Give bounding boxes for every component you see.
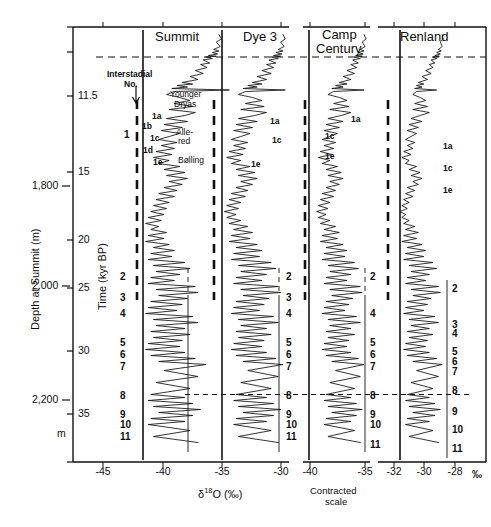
interstadial-number-dye3-4: 4 (286, 309, 292, 319)
interstadial-number-summit-10: 10 (120, 420, 131, 430)
interstadial-number-dye3-8: 8 (286, 391, 292, 401)
interstadial-number-renland-9: 9 (452, 407, 458, 417)
interstadial-number-camp-century-8: 8 (370, 391, 376, 401)
time-tick-30: 30 (78, 345, 90, 356)
interstadial-number-camp-century-11: 11 (370, 440, 381, 450)
substage-1e-renland: 1e (443, 186, 452, 195)
event-allerod-line2: red (178, 137, 190, 146)
core-title-summit: Summit (155, 30, 199, 43)
interstadial-number-summit-3: 3 (120, 293, 126, 303)
curve-camp-century (317, 35, 366, 443)
xlabel-main-2: -35 (214, 465, 229, 477)
interstadial-number-dye3-5: 5 (286, 338, 292, 348)
interstadial-number-summit-4: 4 (120, 309, 126, 319)
event-younger: Younger (170, 90, 201, 99)
interstadial-number-summit-6: 6 (120, 350, 126, 360)
xlabel-renland-0: -32 (386, 465, 401, 477)
core-title-camp-century-line2: Century (316, 42, 362, 55)
substage-1e-dye3: 1e (251, 160, 260, 169)
xlabel-contracted-0: -40 (302, 465, 317, 477)
time-axis-title: Time (kyr BP) (97, 243, 108, 310)
interstadial-number-dye3-2: 2 (286, 272, 292, 282)
stage-label-1: 1 (124, 130, 130, 140)
interstadial-number-renland-2: 2 (452, 284, 458, 294)
interstadial-number-renland-11: 11 (452, 444, 463, 454)
contracted-scale-line1: Contracted (310, 486, 356, 496)
core-title-dye3: Dye 3 (243, 30, 277, 43)
interstadial-number-dye3-6: 6 (286, 350, 292, 360)
interstadial-number-renland-4: 4 (452, 329, 458, 339)
substage-1a-dye3: 1a (270, 117, 279, 126)
interstadial-header-line1: Interstadial (107, 70, 152, 79)
interstadial-number-summit-2: 2 (120, 272, 126, 282)
substage-1d-summit: 1d (143, 146, 153, 155)
xlabel-contracted-1: -35 (357, 465, 372, 477)
curve-renland (400, 35, 443, 443)
interstadial-number-camp-century-10: 10 (370, 420, 381, 430)
interstadial-number-summit-8: 8 (120, 391, 126, 401)
time-tick-11-5: 11.5 (78, 90, 98, 101)
figure-canvas: -45-40-35-30-40-35-32-30-28 (0, 0, 491, 527)
xlabel-renland-1: -30 (416, 465, 431, 477)
substage-1a-summit: 1a (152, 112, 161, 121)
depth-unit-label: m (57, 428, 66, 439)
substage-1e-summit: 1e (153, 158, 162, 167)
interstadial-number-camp-century-6: 6 (370, 350, 376, 360)
substage-1e-camp: 1e (325, 152, 334, 161)
interstadial-number-summit-5: 5 (120, 338, 126, 348)
substage-1a-camp: 1a (351, 115, 360, 124)
interstadial-number-dye3-10: 10 (286, 420, 297, 430)
interstadial-number-dye3-3: 3 (286, 293, 292, 303)
interstadial-number-renland-7: 7 (452, 367, 458, 377)
substage-1a-renland: 1a (443, 142, 452, 151)
substage-1c-dye3: 1c (272, 136, 281, 145)
interstadial-number-camp-century-2: 2 (370, 272, 376, 282)
core-title-renland: Renland (400, 30, 448, 43)
xlabel-renland-2: -28 (447, 465, 462, 477)
time-tick-20: 20 (78, 234, 90, 245)
time-tick-15: 15 (78, 166, 90, 177)
interstadial-number-renland-8: 8 (452, 386, 458, 396)
permil-unit: ‰ (472, 470, 482, 480)
interstadial-number-camp-century-7: 7 (370, 362, 376, 372)
delta-oxygen-permil: O (‰) (212, 488, 242, 500)
interstadial-number-dye3-7: 7 (286, 362, 292, 372)
depth-tick-1800: 1,800 (32, 180, 58, 191)
substage-1c-camp: 1c (325, 132, 334, 141)
substage-1c-summit: 1c (150, 134, 159, 143)
xlabel-main-1: -40 (155, 465, 170, 477)
event-dryas: Dryas (174, 100, 196, 109)
curve-dye-3 (224, 35, 285, 443)
interstadial-number-dye3-11: 11 (286, 432, 297, 442)
interstadial-number-summit-11: 11 (120, 432, 131, 442)
interstadial-header-line2: No. (124, 80, 138, 89)
time-tick-35: 35 (78, 408, 90, 419)
xlabel-main-0: -45 (95, 465, 110, 477)
interstadial-number-renland-10: 10 (452, 425, 463, 435)
substage-1b-summit: 1b (142, 122, 152, 131)
core-title-camp-century: Camp (322, 28, 357, 41)
interstadial-number-camp-century-5: 5 (370, 338, 376, 348)
event-bolling: Bølling (178, 156, 204, 165)
substage-1c-renland: 1c (443, 164, 452, 173)
interstadial-number-camp-century-4: 4 (370, 309, 376, 319)
depth-tick-2000: 2,000 (32, 280, 58, 291)
time-tick-25: 25 (78, 282, 90, 293)
interstadial-number-summit-7: 7 (120, 362, 126, 372)
xlabel-main-3: -30 (273, 465, 288, 477)
delta-axis-title: δ18O (‰) (198, 487, 242, 500)
contracted-scale-line2: scale (325, 497, 347, 507)
depth-tick-2200: 2,200 (32, 394, 58, 405)
